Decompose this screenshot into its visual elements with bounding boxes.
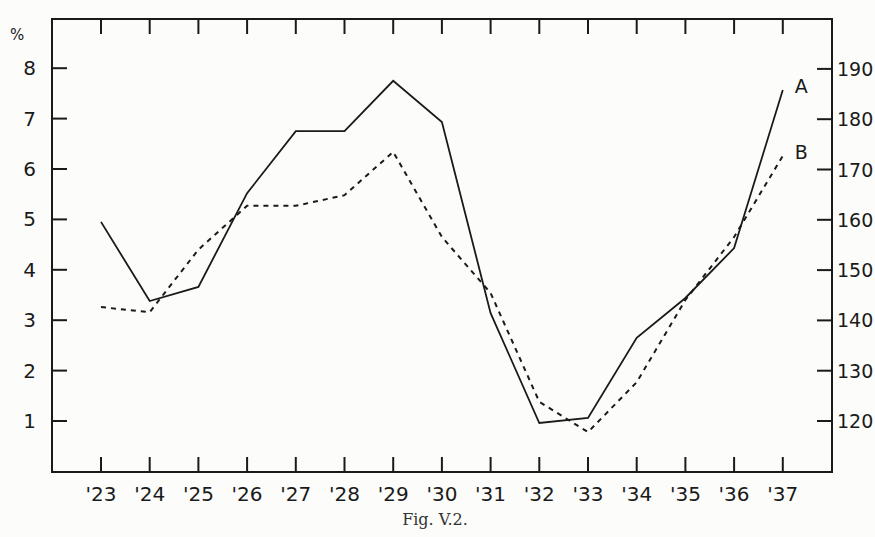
series-layer: AB [101,75,808,432]
x-tick-label: '33 [573,482,604,506]
right-tick-label: 120 [837,410,873,432]
x-tick-label: '29 [378,482,409,506]
x-axis-labels: '23'24'25'26'27'28'29'30'31'32'33'34'35'… [86,482,799,506]
left-tick-label: 2 [23,359,36,383]
series-b-line [101,152,783,432]
top-x-ticks [101,19,783,34]
right-tick-label: 190 [837,58,873,80]
x-tick-label: '27 [280,482,311,506]
x-tick-label: '37 [767,482,798,506]
x-tick-label: '23 [86,482,117,506]
x-tick-label: '35 [670,482,701,506]
series-a-line [101,81,783,423]
x-tick-label: '30 [426,482,457,506]
left-tick-label: 6 [23,157,36,181]
left-y-axis: 12345678 [23,56,67,433]
right-tick-label: 140 [837,309,873,331]
x-tick-label: '32 [524,482,555,506]
left-tick-label: 4 [23,258,36,282]
plot-frame [52,19,832,472]
right-tick-label: 160 [837,209,873,231]
right-tick-label: 150 [837,259,873,281]
left-tick-label: 8 [23,56,36,80]
x-tick-label: '31 [475,482,506,506]
series-a-label: A [795,75,808,97]
series-b-label: B [795,141,808,163]
x-tick-label: '28 [329,482,360,506]
line-chart: '23'24'25'26'27'28'29'30'31'32'33'34'35'… [0,0,875,537]
bottom-x-ticks [101,457,783,472]
right-y-axis: 120130140150160170180190 [817,58,873,432]
x-tick-label: '25 [183,482,214,506]
x-tick-label: '36 [719,482,750,506]
left-tick-label: 1 [23,409,36,433]
left-tick-label: 7 [23,107,36,131]
x-tick-label: '34 [621,482,652,506]
right-tick-label: 180 [837,108,873,130]
right-tick-label: 170 [837,159,873,181]
left-tick-label: 5 [23,207,36,231]
x-tick-label: '26 [232,482,263,506]
left-tick-label: 3 [23,308,36,332]
x-tick-label: '24 [134,482,165,506]
left-axis-unit-label: % [10,26,24,44]
right-tick-label: 130 [837,360,873,382]
figure-caption: Fig. V.2. [402,510,468,529]
